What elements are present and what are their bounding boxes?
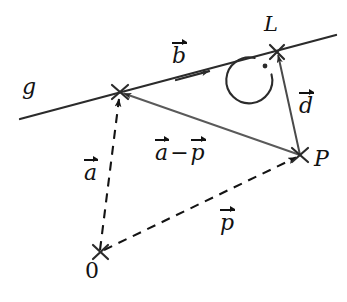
point-marker-P: [292, 148, 308, 162]
label-line-g: g: [22, 76, 36, 98]
vector-a-minus-p-left-symbol: a: [155, 135, 168, 164]
vector-diagram-figure: g L P 0 b d a p a−p: [0, 0, 347, 302]
label-point-P: P: [314, 148, 329, 170]
vector-a-minus-p-operator: −: [168, 140, 190, 165]
vector-p-line: [104, 158, 296, 251]
vector-a-minus-p-right-symbol: p: [191, 135, 205, 164]
right-angle-dot: [263, 64, 268, 69]
vector-b-symbol: b: [172, 38, 186, 67]
vector-a-symbol: a: [84, 155, 97, 184]
label-vector-d: d: [299, 88, 313, 117]
vector-d-line: [278, 56, 300, 156]
label-vector-a-minus-p: a−p: [155, 135, 205, 164]
label-vector-p: p: [220, 205, 234, 234]
vector-a-minus-p-line: [124, 94, 300, 156]
label-vector-b: b: [172, 38, 186, 67]
label-origin: 0: [85, 260, 99, 282]
vector-p-symbol: p: [220, 205, 234, 234]
vector-a-line: [100, 99, 119, 250]
label-vector-a: a: [84, 155, 97, 184]
vector-d-symbol: d: [299, 88, 313, 117]
label-point-L: L: [264, 14, 278, 35]
